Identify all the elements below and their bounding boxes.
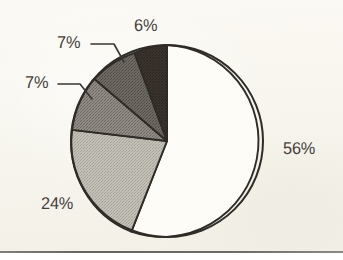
- pie-label-56: 56%: [283, 140, 315, 157]
- pie-chart-graphic: [0, 0, 343, 260]
- pie-label-24: 24%: [41, 195, 73, 212]
- pie-label-6: 6%: [134, 17, 157, 34]
- pie-chart-figure: 56% 24% 7% 7% 6%: [0, 0, 343, 260]
- pie-label-7-left: 7%: [25, 74, 48, 91]
- page-bottom-margin: [0, 253, 343, 260]
- pie-label-7-upper-left: 7%: [57, 34, 80, 51]
- chart-area: 56% 24% 7% 7% 6%: [0, 0, 343, 260]
